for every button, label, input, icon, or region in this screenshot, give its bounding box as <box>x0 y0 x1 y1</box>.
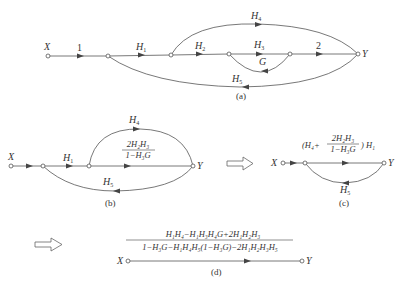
node-x <box>9 164 13 168</box>
label-y: Y <box>197 160 204 171</box>
arrow-icon <box>255 22 262 27</box>
arrow-icon <box>196 52 203 57</box>
forward-gain-close: ) H₁ <box>360 140 375 150</box>
node <box>106 54 110 58</box>
transform-arrow-icon <box>227 157 253 170</box>
arrow-icon <box>290 161 297 166</box>
gain-h1: H1 <box>135 41 146 53</box>
gain-h4: H4 <box>128 114 139 126</box>
node <box>303 161 307 165</box>
node-x <box>281 161 285 165</box>
forward-gain-denominator: 1−H₃G <box>330 144 355 154</box>
node-x <box>46 54 50 58</box>
diagram-b: X H1 H4 2H₂H₃ 1−H₃G Y H5 (b) <box>7 114 204 208</box>
caption-b: (b) <box>105 198 116 208</box>
label-x: X <box>7 151 15 162</box>
arrow-icon <box>66 164 73 169</box>
fraction-denominator: 1−H₃G <box>125 150 150 160</box>
signal-flow-graph-figure: X 1 H1 H2 H3 G 2 H4 H5 Y (a) X H1 H4 2H₂… <box>0 0 400 284</box>
arrow-icon <box>124 164 131 169</box>
node-y <box>191 164 195 168</box>
caption-d: (d) <box>211 267 222 277</box>
edge-h5-arc <box>305 163 384 183</box>
label-x: X <box>43 41 51 52</box>
gain-h1: H1 <box>62 152 73 164</box>
label-x: X <box>116 255 124 266</box>
arrow-icon <box>26 164 33 169</box>
label-y: Y <box>362 48 369 59</box>
gain-h5: H5 <box>102 176 113 188</box>
forward-gain-numerator: 2H₂H₃ <box>332 133 354 143</box>
node-y <box>300 259 304 263</box>
gain-h4: H4 <box>250 10 261 22</box>
arrow-icon <box>113 189 120 194</box>
node <box>41 164 45 168</box>
arrow-icon <box>242 85 249 90</box>
edge-h5-arc <box>43 166 193 191</box>
gain-h2: H2 <box>194 40 205 52</box>
caption-a: (a) <box>236 91 246 101</box>
node-y <box>356 52 360 56</box>
node-x <box>126 259 130 263</box>
diagram-c: X Y (H₄+ 2H₂H₃ 1−H₃G ) H₁ H5 (c) <box>270 133 395 208</box>
arrow-icon <box>138 53 145 58</box>
transform-arrow-icon <box>35 238 62 251</box>
overall-gain-denominator: 1−H₃G−H₁H₄H₅(1−H₃G)−2H₁H₂H₃H₅ <box>142 242 278 252</box>
label-y: Y <box>388 157 395 168</box>
node <box>288 52 292 56</box>
gain-h5: H5 <box>231 73 242 85</box>
arrow-icon <box>261 69 268 74</box>
arrow-icon <box>133 127 140 132</box>
gain-h5: H5 <box>339 184 350 196</box>
arrow-icon <box>77 54 84 59</box>
node-y <box>382 161 386 165</box>
diagram-d: H₁H₄−H₁H₃H₄G+2H₁H₂H₃ 1−H₃G−H₁H₄H₅(1−H₃G)… <box>116 229 313 277</box>
fraction-numerator: 2H₂H₃ <box>127 139 149 149</box>
diagram-a: X 1 H1 H2 H3 G 2 H4 H5 Y (a) <box>43 10 369 101</box>
label-y: Y <box>306 255 313 266</box>
gain-1: 1 <box>77 42 82 53</box>
node <box>227 52 231 56</box>
arrow-icon <box>244 259 251 264</box>
node <box>169 53 173 57</box>
gain-h3: H3 <box>253 39 264 51</box>
arrow-icon <box>342 161 349 166</box>
overall-gain-numerator: H₁H₄−H₁H₃H₄G+2H₁H₂H₃ <box>165 229 261 239</box>
label-x: X <box>270 157 278 168</box>
forward-gain-open: (H₄+ <box>302 140 320 150</box>
gain-2: 2 <box>316 40 321 51</box>
caption-c: (c) <box>339 198 349 208</box>
arrow-icon <box>316 52 323 57</box>
node <box>87 164 91 168</box>
gain-g: G <box>259 56 266 67</box>
